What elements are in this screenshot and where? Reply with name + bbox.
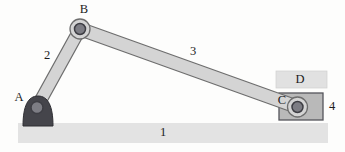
mechanism-diagram: A B C D 1 2 3 4 <box>0 0 345 152</box>
ground-link-bar <box>18 123 328 143</box>
label-slider-block: 4 <box>329 99 336 113</box>
pin-c <box>292 102 303 113</box>
label-joint-c: C <box>278 93 286 107</box>
label-joint-b: B <box>80 2 88 16</box>
coupler-link-body <box>80 29 298 107</box>
label-coupler-link: 3 <box>190 44 196 58</box>
label-joint-a: A <box>14 90 23 104</box>
slider-crank-diagram-canvas: A B C D 1 2 3 4 <box>0 0 345 152</box>
pin-b <box>75 24 86 35</box>
label-slider-guide: D <box>295 72 304 86</box>
label-crank-link: 2 <box>44 48 50 62</box>
pin-a <box>31 102 43 114</box>
label-ground-link: 1 <box>160 125 166 139</box>
crank-link-body <box>37 29 80 107</box>
